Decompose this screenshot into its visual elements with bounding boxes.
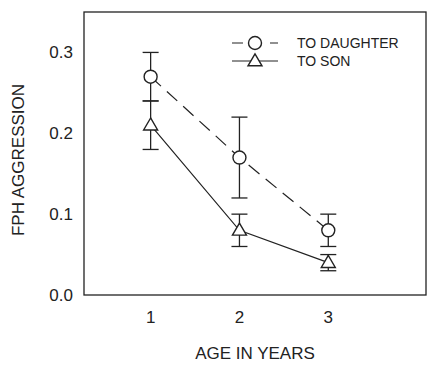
legend-marker (248, 54, 262, 66)
x-tick-labels: 123 (146, 308, 333, 327)
data-point (233, 151, 246, 164)
y-axis-label: FPH AGGRESSION (9, 84, 28, 236)
series-layer (143, 52, 337, 270)
chart: 0.00.10.20.3 123 AGE IN YEARS FPH AGGRES… (0, 0, 440, 376)
legend-item: TO DAUGHTER (232, 35, 399, 51)
data-point (322, 224, 335, 237)
y-tick-label: 0.1 (49, 205, 73, 224)
legend-item: TO SON (232, 53, 350, 69)
y-tick-label: 0.3 (49, 43, 73, 62)
legend-label: TO SON (297, 53, 350, 69)
x-tick-label: 1 (146, 308, 155, 327)
data-point (144, 118, 158, 130)
x-axis-label: AGE IN YEARS (195, 344, 315, 363)
data-point (144, 70, 157, 83)
y-tick-labels: 0.00.10.20.3 (49, 43, 73, 305)
y-tick-label: 0.0 (49, 286, 73, 305)
x-tick-label: 2 (235, 308, 244, 327)
x-tick-label: 3 (324, 308, 333, 327)
legend-label: TO DAUGHTER (297, 35, 399, 51)
y-tick-label: 0.2 (49, 124, 73, 143)
legend: TO DAUGHTERTO SON (232, 35, 399, 69)
legend-marker (249, 37, 262, 50)
